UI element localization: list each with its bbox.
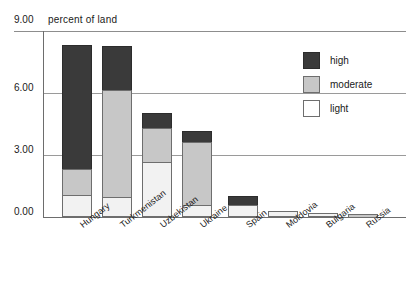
- y-axis-label-3: 3.00: [14, 144, 33, 155]
- y-axis-label-6: 6.00: [14, 82, 33, 93]
- bar-turkmenistan[interactable]: [102, 46, 132, 218]
- legend-item-moderate[interactable]: moderate: [303, 72, 403, 96]
- legend-swatch-light-icon: [303, 100, 320, 117]
- bar-segment-moderate: [142, 128, 172, 162]
- legend-swatch-moderate-icon: [303, 76, 320, 93]
- bar-segment-moderate: [182, 142, 212, 205]
- legend-label: high: [330, 55, 349, 66]
- chart-legend: highmoderatelight: [303, 48, 403, 120]
- y-axis-label-0: 0.00: [14, 206, 33, 217]
- bar-segment-moderate: [102, 90, 132, 197]
- legend-label: light: [330, 103, 348, 114]
- legend-item-high[interactable]: high: [303, 48, 403, 72]
- bar-hungary[interactable]: [62, 45, 92, 217]
- legend-swatch-high-icon: [303, 52, 320, 69]
- legend-item-light[interactable]: light: [303, 96, 403, 120]
- bar-segment-high: [228, 196, 258, 204]
- bar-segment-moderate: [62, 169, 92, 195]
- bar-segment-high: [182, 131, 212, 141]
- y-axis-label-max: 9.00: [14, 14, 33, 25]
- bar-segment-high: [142, 113, 172, 129]
- chart-axis-title: percent of land: [48, 14, 117, 25]
- bar-segment-high: [62, 45, 92, 169]
- bar-segment-high: [102, 46, 132, 90]
- legend-label: moderate: [330, 79, 372, 90]
- stacked-bar-chart: 9.00 percent of land 6.00 3.00 0.00 Hung…: [0, 0, 410, 293]
